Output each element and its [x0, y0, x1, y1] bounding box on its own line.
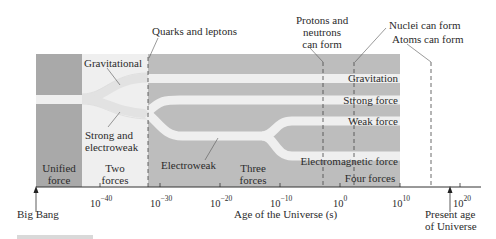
- three-forces-label-line2: forces: [228, 174, 278, 186]
- atoms-leader: [407, 44, 431, 62]
- tick-1e0: 100: [333, 195, 347, 209]
- three-forces-label-line1: Three: [228, 162, 278, 174]
- strong-ew-label-line1: Strong and: [85, 129, 133, 141]
- tick-1e20: 1020: [453, 195, 471, 209]
- present-age-label-line2: of Universe: [425, 220, 477, 232]
- weak-force-label: Weak force: [320, 115, 398, 127]
- protons-label-line1: Protons and: [280, 14, 364, 26]
- two-forces-label-line2: forces: [82, 174, 148, 186]
- strong-ew-label-line2: electroweak: [85, 141, 138, 153]
- gravitation-label: Gravitation: [330, 72, 398, 84]
- strong-force-label: Strong force: [320, 94, 398, 106]
- four-forces-label: Four forces: [330, 172, 410, 184]
- x-axis-label: Age of the Universe (s): [234, 208, 337, 220]
- unified-force-label-line1: Unified: [36, 162, 82, 174]
- tick-1e-30: 10−30: [150, 195, 172, 209]
- gravitational-label: Gravitational: [84, 57, 142, 69]
- quarks-leptons-label: Quarks and leptons: [152, 25, 237, 37]
- caption-bar: [17, 235, 93, 239]
- protons-label-line2: neutrons: [280, 26, 364, 38]
- protons-label-line3: can form: [280, 38, 364, 50]
- two-forces-label-line1: Two: [82, 162, 148, 174]
- tick-1e-10: 10−10: [270, 195, 292, 209]
- tick-1e10: 1010: [392, 195, 410, 209]
- atoms-label: Atoms can form: [392, 33, 463, 45]
- nuclei-label: Nuclei can form: [389, 19, 460, 31]
- unified-force-label-line2: force: [36, 174, 82, 186]
- electromagnetic-force-label: Electromagnetic force: [280, 155, 398, 167]
- tick-1e-20: 10−20: [210, 195, 232, 209]
- unified-band: [36, 95, 82, 104]
- present-age-label-line1: Present age: [425, 208, 475, 220]
- tick-1e-40: 10−40: [90, 195, 112, 209]
- big-bang-label: Big Bang: [17, 208, 59, 220]
- electroweak-label: Electroweak: [161, 159, 216, 171]
